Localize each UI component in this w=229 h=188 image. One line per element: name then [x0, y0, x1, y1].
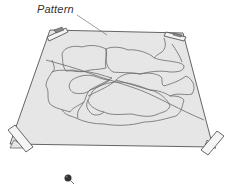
pattern-taping-diagram: Pattern: [0, 0, 229, 188]
diagram-canvas: [0, 0, 229, 188]
pattern-label: Pattern: [37, 3, 74, 15]
pushpin-icon: [65, 175, 75, 185]
